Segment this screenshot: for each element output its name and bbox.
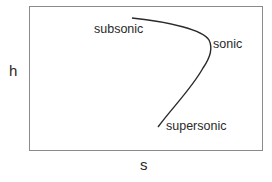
x-axis-label: s xyxy=(140,156,148,173)
label-sonic: sonic xyxy=(213,37,242,51)
hs-curve xyxy=(132,18,211,127)
label-subsonic: subsonic xyxy=(94,22,143,36)
y-axis-label: h xyxy=(9,62,17,79)
label-supersonic: supersonic xyxy=(166,119,226,133)
